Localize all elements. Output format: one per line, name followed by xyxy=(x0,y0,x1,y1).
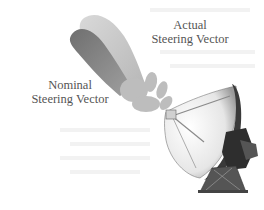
nominal-steering-vector-label: Nominal Steering Vector xyxy=(20,78,120,106)
satellite-dish-antenna xyxy=(165,84,259,193)
actual-label-line2: Steering Vector xyxy=(140,32,240,46)
actual-label-line1: Actual xyxy=(140,18,240,32)
nominal-label-line1: Nominal xyxy=(20,78,120,92)
diagram-canvas: Actual Steering Vector Nominal Steering … xyxy=(0,0,264,210)
actual-steering-vector-label: Actual Steering Vector xyxy=(140,18,240,46)
nominal-label-line2: Steering Vector xyxy=(20,92,120,106)
